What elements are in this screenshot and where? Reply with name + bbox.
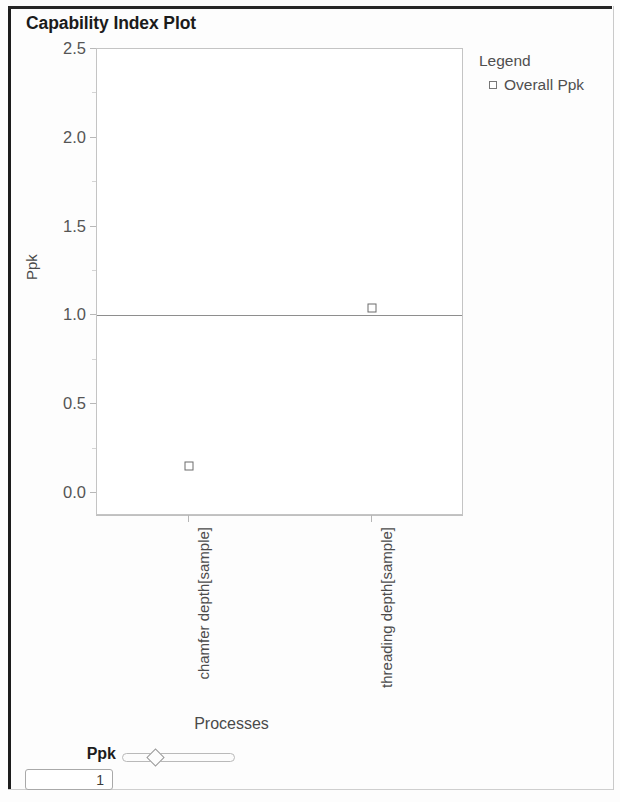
page-title: Capability Index Plot [26,13,196,34]
open-square-marker [489,81,497,89]
legend: Legend Overall Ppk [479,52,584,94]
y-tick-label: 1.5 [0,216,86,235]
legend-entries: Overall Ppk [479,76,584,94]
slider-track[interactable] [122,753,235,762]
data-point-marker[interactable] [368,304,377,313]
x-tick-label: threading depth[sample] [378,527,395,688]
data-point-marker[interactable] [184,462,193,471]
y-tick-label: 0.0 [0,482,86,501]
x-tick-mark [188,515,189,522]
slider-handle[interactable] [146,748,164,766]
panel-border-top [8,6,612,9]
capability-index-plot-panel: Capability Index Plot 0.00.51.01.52.02.5… [0,0,620,802]
ppk-value-input[interactable] [25,769,113,790]
ppk-control-label: Ppk [22,745,116,763]
y-tick-label: 0.5 [0,394,86,413]
ppk-threshold-slider[interactable] [122,751,235,764]
y-tick-label: 2.0 [0,127,86,146]
panel-border-right [613,6,614,790]
legend-title: Legend [479,52,584,70]
x-tick-mark [371,515,372,522]
y-axis-title: Ppk [23,254,40,280]
legend-entry-label: Overall Ppk [504,76,584,94]
y-tick-label: 1.0 [0,305,86,324]
ppk-threshold-line [97,315,462,316]
x-axis-title: Processes [0,715,463,733]
plot-area [96,48,463,515]
x-axis-line [96,515,463,516]
y-tick-label: 2.5 [0,39,86,58]
x-tick-label: chamfer depth[sample] [195,527,212,680]
legend-entry[interactable]: Overall Ppk [479,76,584,94]
